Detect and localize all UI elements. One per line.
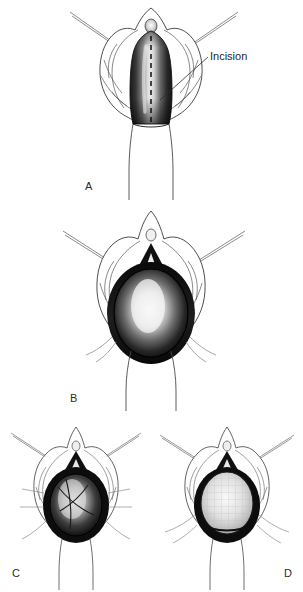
panel-d-artwork xyxy=(151,415,303,592)
cavity-highlight xyxy=(131,279,165,333)
shaft-outline-left xyxy=(126,351,131,411)
panel-label-c: C xyxy=(12,568,20,579)
shaft-outline-right xyxy=(171,351,176,411)
shaft-outline-right xyxy=(169,124,173,200)
panel-label-b: B xyxy=(70,393,78,404)
panel-a: Incision A xyxy=(0,0,303,205)
incision-callout-label: Incision xyxy=(210,51,247,62)
panel-b-artwork xyxy=(0,205,303,415)
panel-a-artwork xyxy=(0,0,303,205)
cavity-highlight xyxy=(58,479,86,519)
panel-b: B xyxy=(0,205,303,415)
surgical-figure: Incision A xyxy=(0,0,303,592)
panel-label-a: A xyxy=(85,181,93,192)
apex-tip xyxy=(72,441,80,451)
shaft-outline-left xyxy=(59,539,62,590)
shaft-outline-left xyxy=(129,124,133,200)
shaft-outline-right xyxy=(90,539,93,590)
apex-tip xyxy=(223,441,231,451)
panel-d: D xyxy=(151,415,303,592)
panel-c: C xyxy=(0,415,152,592)
panel-label-d: D xyxy=(284,568,292,579)
apex-tip xyxy=(146,229,156,241)
shaft-outline-left xyxy=(210,539,213,590)
shaft-outline-right xyxy=(241,539,244,590)
panel-c-artwork xyxy=(0,415,152,592)
